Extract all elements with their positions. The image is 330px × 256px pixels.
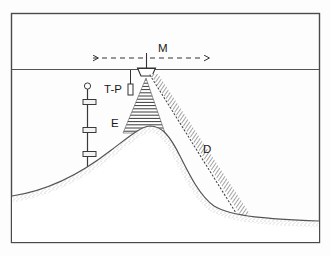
figure-container: M T-P E D <box>0 0 330 256</box>
label-TP: T-P <box>104 83 122 95</box>
current-meter-2 <box>83 128 96 133</box>
current-meter-1 <box>83 100 96 105</box>
label-D: D <box>203 143 211 155</box>
label-M: M <box>158 42 168 54</box>
current-meter-3 <box>83 152 96 157</box>
label-E: E <box>111 117 119 129</box>
oceanographic-section-diagram: M T-P E D <box>0 0 330 256</box>
mooring-float <box>84 83 90 89</box>
